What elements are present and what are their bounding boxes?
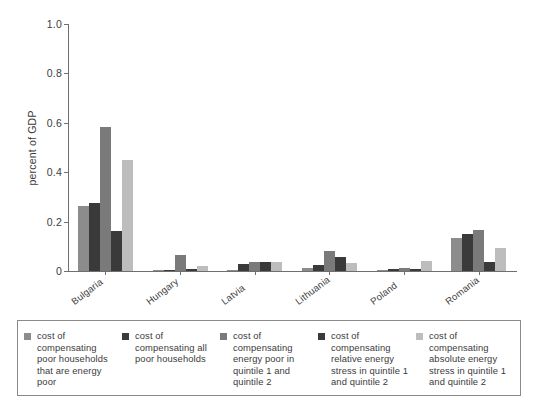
x-axis-tick-mark bbox=[255, 271, 256, 275]
legend-item[interactable]: cost of compensating all poor households bbox=[122, 330, 220, 395]
x-axis-tick-label: Hungary bbox=[144, 276, 180, 307]
bar bbox=[260, 262, 271, 271]
bar bbox=[451, 238, 462, 271]
y-axis-tick-mark bbox=[64, 222, 68, 223]
bar bbox=[324, 251, 335, 272]
legend-item[interactable]: cost of compensating poor households tha… bbox=[24, 330, 122, 395]
bar bbox=[377, 270, 388, 271]
bar bbox=[249, 262, 260, 271]
bar bbox=[238, 264, 249, 271]
y-axis-tick-mark bbox=[64, 24, 68, 25]
legend-item[interactable]: cost of compensating energy poor in quin… bbox=[220, 330, 318, 395]
bar bbox=[346, 263, 357, 271]
bar bbox=[186, 269, 197, 271]
bar bbox=[495, 248, 506, 271]
legend-swatch-icon bbox=[416, 333, 423, 340]
y-axis-tick-label: 0.6 bbox=[47, 117, 62, 129]
bar-group bbox=[450, 24, 508, 271]
x-axis-tick-mark bbox=[404, 271, 405, 275]
y-axis-tick-mark bbox=[64, 123, 68, 124]
bar-group bbox=[151, 24, 209, 271]
x-axis-tick-mark bbox=[329, 271, 330, 275]
legend-item-label: cost of compensating absolute energy str… bbox=[429, 330, 510, 388]
bar bbox=[122, 160, 133, 271]
bar-group bbox=[76, 24, 134, 271]
x-axis-tick-label: Lithuania bbox=[293, 274, 332, 307]
x-axis-tick-label: Latvia bbox=[219, 282, 247, 307]
y-axis-tick-label: 0.2 bbox=[47, 216, 62, 228]
legend-item-label: cost of compensating all poor households bbox=[135, 330, 216, 365]
plot-area: percent of GDP 00.20.40.60.81.0 bbox=[68, 24, 516, 271]
bar bbox=[175, 255, 186, 271]
x-axis-tick-label: Romania bbox=[443, 274, 481, 307]
bar bbox=[421, 261, 432, 271]
x-axis-line bbox=[68, 271, 517, 272]
bar bbox=[153, 270, 164, 271]
x-axis-tick-label: Poland bbox=[368, 279, 399, 306]
y-axis-tick-mark bbox=[64, 73, 68, 74]
bar bbox=[111, 231, 122, 271]
bar-group bbox=[375, 24, 433, 271]
bar bbox=[78, 206, 89, 271]
legend-swatch-icon bbox=[24, 333, 31, 340]
x-axis-tick-label: Bulgaria bbox=[69, 276, 105, 307]
bar bbox=[227, 270, 238, 271]
bar bbox=[313, 265, 324, 271]
bar-group bbox=[226, 24, 284, 271]
chart-figure: percent of GDP 00.20.40.60.81.0 Bulgaria… bbox=[0, 0, 540, 416]
legend-swatch-icon bbox=[122, 333, 129, 340]
legend-item[interactable]: cost of compensating absolute energy str… bbox=[416, 330, 514, 395]
bar bbox=[388, 269, 399, 271]
bar bbox=[271, 262, 282, 271]
bar bbox=[100, 127, 111, 271]
x-axis-tick-mark bbox=[479, 271, 480, 275]
bar bbox=[473, 230, 484, 271]
chart-legend: cost of compensating poor households tha… bbox=[17, 320, 521, 396]
legend-item[interactable]: cost of compensating relative energy str… bbox=[318, 330, 416, 395]
bar bbox=[484, 262, 495, 271]
y-axis-tick-mark bbox=[64, 172, 68, 173]
legend-item-label: cost of compensating relative energy str… bbox=[331, 330, 412, 388]
legend-item-label: cost of compensating poor households tha… bbox=[37, 330, 118, 388]
x-axis-tick-mark bbox=[105, 271, 106, 275]
bar bbox=[164, 270, 175, 271]
x-axis-tick-mark bbox=[180, 271, 181, 275]
y-axis-tick-label: 0 bbox=[56, 265, 62, 277]
bar bbox=[335, 257, 346, 271]
bar bbox=[410, 269, 421, 271]
legend-item-label: cost of compensating energy poor in quin… bbox=[233, 330, 314, 388]
bar bbox=[89, 203, 100, 271]
legend-swatch-icon bbox=[318, 333, 325, 340]
y-axis-tick-label: 0.8 bbox=[47, 67, 62, 79]
bar-group bbox=[300, 24, 358, 271]
y-axis-tick-label: 0.4 bbox=[47, 166, 62, 178]
y-axis-tick-label: 1.0 bbox=[47, 18, 62, 30]
legend-swatch-icon bbox=[220, 333, 227, 340]
y-axis-tick-mark bbox=[64, 271, 68, 272]
y-axis-label: percent of GDP bbox=[26, 110, 38, 185]
bar bbox=[302, 268, 313, 271]
bar bbox=[197, 266, 208, 271]
bar bbox=[462, 234, 473, 271]
